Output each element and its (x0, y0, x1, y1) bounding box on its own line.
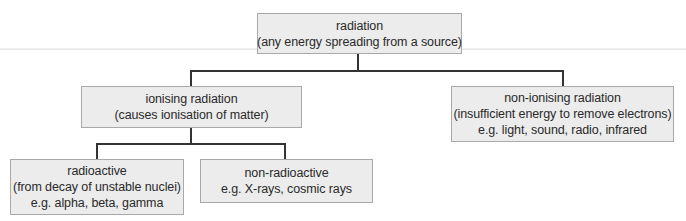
node-ionising-subtitle: (causes ionisation of matter) (114, 107, 268, 123)
node-radioactive-examples: e.g. alpha, beta, gamma (31, 195, 164, 211)
node-non-ionising-radiation: non-ionising radiation (insufficient ene… (451, 86, 674, 142)
connector-to-radioactive (96, 143, 98, 159)
node-non-ionising-examples: e.g. light, sound, radio, infrared (478, 122, 647, 138)
node-ionising-title: ionising radiation (145, 91, 237, 107)
radiation-classification-diagram: radiation (any energy spreading from a s… (0, 0, 686, 221)
node-non-radioactive: non-radioactive e.g. X-rays, cosmic rays (200, 159, 373, 203)
node-radioactive-title: radioactive (67, 163, 126, 179)
node-non-ionising-title: non-ionising radiation (504, 90, 621, 106)
connector-to-ionising (190, 70, 192, 86)
node-non-radioactive-examples: e.g. X-rays, cosmic rays (221, 181, 352, 197)
connector-level2-bar (190, 70, 564, 72)
node-radioactive-subtitle: (from decay of unstable nuclei) (13, 179, 181, 195)
connector-level3-bar (96, 143, 286, 145)
node-radioactive: radioactive (from decay of unstable nucl… (10, 159, 184, 215)
node-radiation-subtitle: (any energy spreading from a source) (257, 34, 462, 50)
node-non-radioactive-title: non-radioactive (245, 165, 329, 181)
node-non-ionising-subtitle: (insufficient energy to remove electrons… (454, 106, 672, 122)
node-radiation: radiation (any energy spreading from a s… (257, 13, 462, 54)
node-radiation-title: radiation (336, 18, 383, 34)
node-ionising-radiation: ionising radiation (causes ionisation of… (81, 86, 302, 128)
connector-to-non-ionising (562, 70, 564, 86)
connector-to-non-radioactive (284, 143, 286, 159)
